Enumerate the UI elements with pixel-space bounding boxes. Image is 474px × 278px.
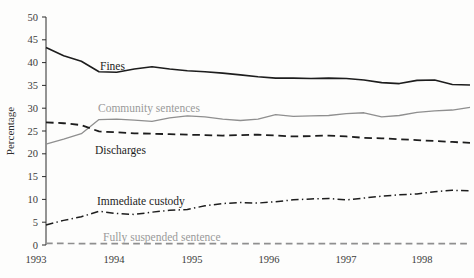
series-label-discharges: Discharges xyxy=(95,144,146,157)
series-label-immediate-custody: Immediate custody xyxy=(97,195,185,208)
x-axis-tick-labels: 199319941995199619971998 xyxy=(26,254,433,265)
y-tick-label: 15 xyxy=(28,171,39,182)
y-tick-label: 20 xyxy=(28,148,39,159)
x-tick-label: 1993 xyxy=(26,254,47,265)
y-tick-label: 50 xyxy=(28,12,39,23)
y-tick-label: 40 xyxy=(28,57,39,68)
series-line-discharges xyxy=(46,122,470,143)
y-tick-label: 35 xyxy=(28,80,39,91)
y-tick-label: 0 xyxy=(33,240,38,251)
series-label-fines: Fines xyxy=(100,60,125,72)
x-tick-label: 1994 xyxy=(104,254,126,265)
y-tick-label: 45 xyxy=(28,34,39,45)
x-tick-label: 1997 xyxy=(336,254,357,265)
y-tick-label: 10 xyxy=(28,194,39,205)
series-label-fully-suspended-sentence: Fully suspended sentence xyxy=(103,231,221,244)
x-tick-label: 1996 xyxy=(259,254,280,265)
y-axis-ticks: 05101520253035404550 xyxy=(28,12,47,251)
series-label-community-sentences: Community sentences xyxy=(98,102,200,115)
line-chart: 05101520253035404550 1993199419951996199… xyxy=(0,0,474,278)
chart-container: 05101520253035404550 1993199419951996199… xyxy=(0,0,474,278)
x-tick-label: 1998 xyxy=(412,254,433,265)
y-tick-label: 30 xyxy=(28,103,39,114)
y-tick-label: 5 xyxy=(33,217,38,228)
x-tick-label: 1995 xyxy=(182,254,203,265)
y-tick-label: 25 xyxy=(28,126,39,137)
series-annotation-labels: FinesCommunity sentencesDischargesImmedi… xyxy=(95,60,221,244)
y-axis-title: Percentage xyxy=(4,107,16,155)
